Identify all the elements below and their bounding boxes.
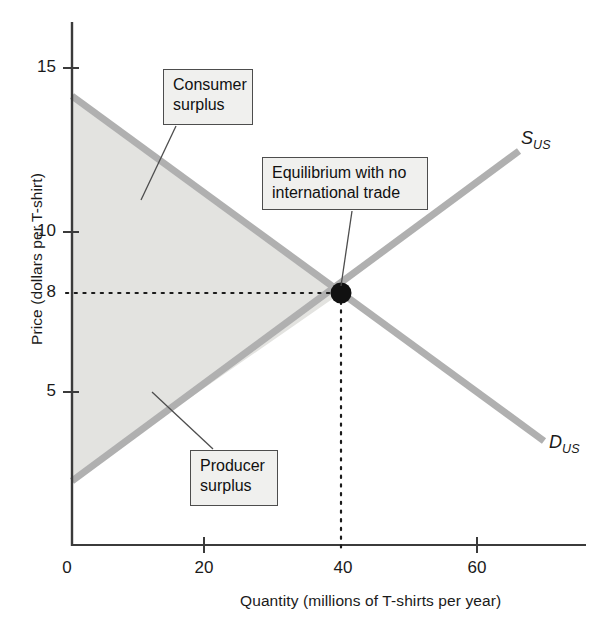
demand-curve-label: DUS (549, 432, 580, 456)
demand-curve-label-subscript: US (562, 442, 580, 456)
supply-curve-label: SUS (521, 128, 551, 152)
supply-curve-label-main: S (521, 128, 533, 148)
supply-demand-figure: Price (dollars per T-shirt) Quantity (mi… (0, 0, 605, 624)
consumer-surplus-callout: Consumer surplus (163, 69, 253, 125)
y-tick-label-5: 5 (16, 381, 56, 401)
plot-canvas (0, 0, 605, 624)
x-axis-title: Quantity (millions of T-shirts per year) (240, 592, 501, 610)
producer-surplus-callout: Producer surplus (190, 450, 278, 506)
x-tick-label-20: 20 (184, 558, 224, 578)
x-tick-label-0: 0 (47, 558, 87, 578)
y-axis-title: Price (dollars per T-shirt) (28, 149, 46, 369)
y-tick-label-10: 10 (16, 221, 56, 241)
y-tick-label-8: 8 (16, 282, 56, 302)
supply-curve-label-subscript: US (533, 138, 551, 152)
x-tick-label-40: 40 (323, 558, 363, 578)
x-tick-label-60: 60 (457, 558, 497, 578)
equilibrium-callout: Equilibrium with no international trade (262, 157, 428, 210)
demand-curve-label-main: D (549, 432, 562, 452)
y-tick-label-15: 15 (16, 57, 56, 77)
